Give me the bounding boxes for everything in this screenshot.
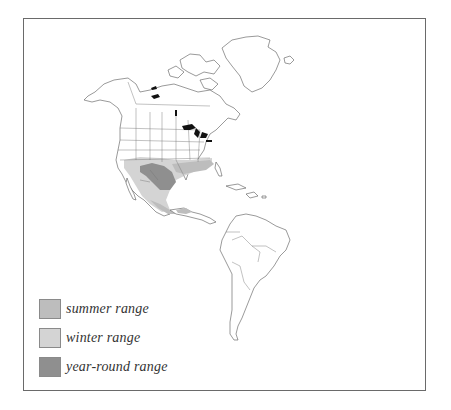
legend-item-summer: summer range: [39, 294, 168, 323]
legend-item-winter: winter range: [39, 323, 168, 352]
year-round-range-swatch: [39, 357, 61, 377]
greenland: [222, 36, 280, 92]
iceland: [284, 56, 294, 64]
legend-label: winter range: [66, 330, 140, 346]
legend-item-year-round: year-round range: [39, 352, 168, 381]
summer-range-swatch: [39, 299, 61, 319]
florida: [215, 162, 222, 176]
caribbean-islands: [226, 184, 266, 198]
legend-label: year-round range: [66, 359, 168, 375]
south-america: [220, 214, 290, 340]
legend: summer range winter range year-round ran…: [39, 294, 168, 381]
legend-label: summer range: [66, 301, 149, 317]
winter-range-swatch: [39, 328, 61, 348]
